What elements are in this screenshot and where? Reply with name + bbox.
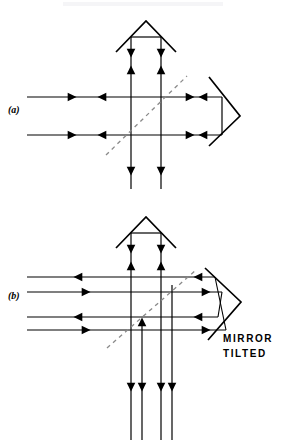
corner-prism-a-vertex <box>209 77 240 146</box>
panel-a-group <box>27 21 240 189</box>
horizontal-rays-a <box>27 97 222 135</box>
panel-label-b: (b) <box>8 291 20 301</box>
roof-prism-a <box>116 21 176 52</box>
vertical-rays-a <box>131 37 161 189</box>
corner-prism-b <box>205 268 241 340</box>
panel-b-group <box>27 217 241 440</box>
roof-prism-b <box>116 217 176 248</box>
corner-prism-a <box>209 77 240 146</box>
mirror-tilted-label-line2: TILTED <box>223 347 267 361</box>
panel-label-a: (a) <box>8 105 20 115</box>
optical-diagram-figure: (a) (b) MIRROR TILTED <box>0 0 287 445</box>
ray-diagram-canvas <box>0 0 287 445</box>
beamsplitter-a <box>106 76 187 155</box>
beamsplitter-b <box>107 270 196 348</box>
mirror-tilted-label-line1: MIRROR <box>223 332 273 346</box>
horizontal-rays-b <box>27 277 226 330</box>
vertical-rays-b <box>131 233 172 440</box>
corner-prism-b-vertex <box>205 268 241 340</box>
